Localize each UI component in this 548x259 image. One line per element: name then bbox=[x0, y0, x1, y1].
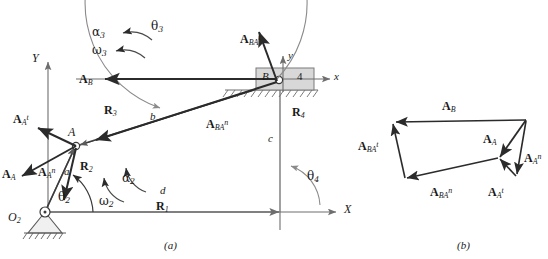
label-angle-theta3: θ3 bbox=[151, 20, 163, 34]
label-link-length-d: d bbox=[160, 185, 166, 196]
label-b-AA-t-letter: A bbox=[488, 185, 497, 199]
label-link-length-a: a bbox=[64, 166, 70, 177]
label-R4-sub: 4 bbox=[301, 111, 305, 120]
caption-panel-a: (a) bbox=[164, 240, 177, 251]
vector-AA-panel-b bbox=[500, 120, 526, 157]
label-theta4-sub: 4 bbox=[314, 175, 319, 184]
label-R4-letter: R bbox=[292, 105, 301, 119]
label-accel-ABA-t-panel-b: ABAt bbox=[358, 140, 379, 154]
label-accel-AA-n-panel-a: AAn bbox=[38, 166, 55, 180]
label-accel-AA-t-panel-a: AAt bbox=[13, 113, 29, 127]
label-b-ABA-t-letter: A bbox=[358, 139, 367, 153]
label-joint-b: B bbox=[262, 71, 269, 82]
label-ABA-t-sub: BA bbox=[249, 38, 259, 47]
label-R1-letter: R bbox=[156, 199, 165, 213]
figure-root: Y X y x O2 A B 4 a b c d R1 R2 R3 R4 θ2 … bbox=[0, 0, 548, 259]
label-b-ABA-t-sub: BA bbox=[367, 145, 377, 154]
label-AB-sub: B bbox=[88, 78, 93, 87]
label-vector-R1: R1 bbox=[156, 200, 169, 214]
label-AB-letter: A bbox=[79, 72, 88, 86]
vector-AB-panel-b bbox=[396, 120, 526, 122]
label-omega3: ω3 bbox=[92, 44, 107, 58]
omega3-arrow bbox=[116, 50, 145, 58]
label-b-ABA-n-sub: BA bbox=[439, 191, 449, 200]
label-b-ABA-n-sup: n bbox=[448, 186, 452, 195]
ground-hatching-slider bbox=[223, 90, 318, 97]
label-omega2-letter: ω bbox=[99, 194, 109, 208]
label-accel-AA-n-panel-b: AAn bbox=[524, 152, 541, 166]
label-accel-AB-panel-b: AB bbox=[442, 100, 456, 114]
label-omega2: ω2 bbox=[99, 195, 114, 209]
vector-ABA-n-panel-a bbox=[96, 82, 277, 140]
label-alpha2-letter: α bbox=[122, 171, 130, 185]
label-link-length-c: c bbox=[268, 133, 273, 144]
label-link-4: 4 bbox=[297, 71, 303, 82]
vector-AA-t-panel-b bbox=[500, 159, 516, 176]
label-link-length-b: b bbox=[150, 111, 156, 122]
label-AA-letter: A bbox=[2, 167, 11, 181]
label-accel-AA-panel-a: AA bbox=[2, 168, 16, 182]
label-ABA-n-letter: A bbox=[206, 117, 215, 131]
label-R1-sub: 1 bbox=[165, 205, 169, 214]
label-theta3-sub: 3 bbox=[158, 25, 163, 34]
label-accel-ABA-n-panel-a: ABAn bbox=[206, 118, 228, 132]
label-b-AA-letter: A bbox=[483, 132, 492, 146]
label-ABA-t-letter: A bbox=[240, 32, 249, 46]
label-b-AA-sub: A bbox=[492, 138, 497, 147]
caption-panel-b: (b) bbox=[457, 240, 470, 251]
label-AA-t-sup: t bbox=[27, 113, 29, 122]
label-ABA-n-sup: n bbox=[224, 118, 228, 127]
label-angle-theta4: θ4 bbox=[307, 170, 319, 184]
label-b-AA-n-letter: A bbox=[524, 151, 533, 165]
label-vector-R3: R3 bbox=[104, 104, 117, 118]
label-global-y-axis: Y bbox=[32, 52, 39, 64]
label-ABA-t-sup: t bbox=[258, 33, 260, 42]
label-omega2-sub: 2 bbox=[109, 200, 114, 209]
label-vector-R2: R2 bbox=[80, 160, 93, 174]
label-omega3-letter: ω bbox=[92, 43, 102, 57]
label-accel-AA-t-panel-b: AAt bbox=[488, 186, 504, 200]
label-vector-R4: R4 bbox=[292, 106, 305, 120]
label-R3-letter: R bbox=[104, 103, 113, 117]
vector-ABA-t-panel-b bbox=[393, 124, 405, 178]
label-b-AA-n-sup: n bbox=[538, 152, 542, 161]
label-alpha3: α3 bbox=[92, 26, 105, 40]
label-accel-AA-panel-b: AA bbox=[483, 133, 497, 147]
angle-arc-theta3 bbox=[85, 0, 307, 108]
label-o2-sub: 2 bbox=[17, 216, 21, 225]
label-b-AA-t-sup: t bbox=[502, 186, 504, 195]
label-alpha2-sub: 2 bbox=[130, 177, 135, 186]
label-b-ABA-n-letter: A bbox=[430, 185, 439, 199]
label-alpha3-sub: 3 bbox=[100, 31, 105, 40]
label-accel-ABA-n-panel-b: ABAn bbox=[430, 186, 452, 200]
label-ABA-n-sub: BA bbox=[215, 123, 225, 132]
label-alpha2: α2 bbox=[122, 172, 135, 186]
label-AA-t-letter: A bbox=[13, 112, 22, 126]
label-ground-pivot-o2: O2 bbox=[8, 211, 21, 225]
label-b-ABA-t-sup: t bbox=[376, 140, 378, 149]
label-AA-n-letter: A bbox=[38, 165, 47, 179]
label-alpha3-letter: α bbox=[92, 25, 100, 39]
alpha3-arrow bbox=[123, 32, 152, 40]
label-global-x-axis: X bbox=[344, 203, 351, 215]
label-R3-sub: 3 bbox=[113, 109, 117, 118]
label-accel-ABA-t-panel-a: ABAt bbox=[240, 33, 261, 47]
angle-arc-theta2 bbox=[73, 175, 93, 212]
diagram-canvas bbox=[0, 0, 548, 259]
label-omega3-sub: 3 bbox=[102, 49, 107, 58]
label-local-y-axis: y bbox=[288, 50, 293, 61]
vector-ABA-n-panel-b bbox=[407, 158, 498, 178]
label-theta2-sub: 2 bbox=[65, 196, 70, 205]
label-angle-theta2: θ2 bbox=[58, 191, 70, 205]
label-joint-a: A bbox=[68, 126, 75, 138]
label-R2-sub: 2 bbox=[89, 165, 93, 174]
label-AA-sub: A bbox=[11, 173, 16, 182]
label-b-AB-sub: B bbox=[451, 105, 456, 114]
label-accel-AB-panel-a: AB bbox=[79, 73, 93, 87]
label-AA-n-sup: n bbox=[52, 166, 56, 175]
label-b-AB-letter: A bbox=[442, 99, 451, 113]
label-local-x-axis: x bbox=[334, 71, 339, 82]
label-o2-letter: O bbox=[8, 210, 17, 224]
label-R2-letter: R bbox=[80, 159, 89, 173]
